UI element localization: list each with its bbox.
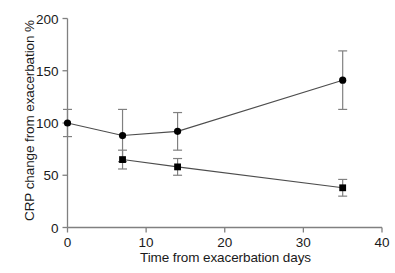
svg-text:50: 50: [43, 168, 58, 183]
svg-text:0: 0: [51, 221, 59, 236]
x-axis-label: Time from exacerbation days: [69, 250, 382, 265]
svg-text:0: 0: [64, 235, 72, 250]
y-axis-label: CRP change from exacerbation %: [22, 16, 37, 226]
svg-text:10: 10: [139, 235, 154, 250]
chart-error-bars: [63, 51, 347, 196]
chart-series-lines: [68, 80, 343, 188]
svg-text:200: 200: [36, 12, 59, 27]
y-axis-ticks: 050100150200: [36, 12, 68, 236]
chart-axes: [68, 19, 383, 228]
chart-figure: 050100150200 010203040 CRP change from e…: [0, 0, 395, 273]
svg-text:150: 150: [36, 64, 59, 79]
svg-text:40: 40: [374, 235, 389, 250]
svg-text:20: 20: [217, 235, 232, 250]
svg-text:30: 30: [296, 235, 311, 250]
svg-text:100: 100: [36, 116, 59, 131]
chart-plot-area: 050100150200 010203040: [0, 0, 395, 273]
x-axis-ticks: 010203040: [64, 228, 390, 250]
chart-data-markers: [64, 77, 346, 192]
